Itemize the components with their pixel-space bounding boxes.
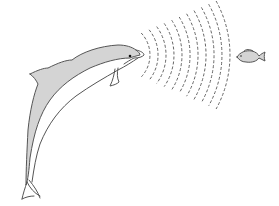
- dolphin: [22, 45, 144, 199]
- sound-wave-arc: [209, 4, 222, 106]
- sound-wave-arc: [172, 20, 182, 90]
- sound-wave-arc: [201, 7, 214, 102]
- dolphin-back: [26, 45, 140, 185]
- fish: [237, 50, 265, 63]
- echolocation-illustration: [0, 0, 279, 206]
- sound-wave-arc: [179, 17, 190, 93]
- fish-eye: [240, 55, 242, 57]
- sound-wave-arc: [194, 11, 206, 100]
- sound-wave-arc: [149, 30, 158, 80]
- sound-wave-arc: [141, 33, 150, 77]
- dolphin-flipper: [110, 68, 119, 86]
- sound-waves: [141, 1, 230, 109]
- dolphin-tail: [22, 180, 40, 199]
- sound-wave-arc: [216, 1, 230, 109]
- dolphin-eye: [129, 55, 132, 58]
- sound-wave-arc: [187, 14, 198, 96]
